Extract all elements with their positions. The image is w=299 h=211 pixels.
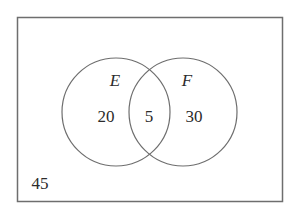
intersection-count: 5: [145, 107, 154, 126]
outside-count: 45: [32, 174, 49, 193]
set-e-label: E: [109, 71, 121, 90]
venn-diagram: E F 20 5 30 45: [0, 0, 299, 211]
f-only-count: 30: [186, 107, 203, 126]
e-only-count: 20: [98, 107, 115, 126]
set-f-label: F: [181, 71, 193, 90]
